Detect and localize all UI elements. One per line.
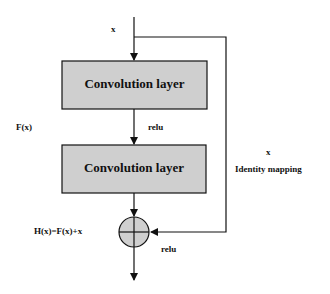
shortcut-x-label: x [266,147,271,157]
input-label: x [111,24,116,34]
residual-block-diagram: x Convolution layer F(x) relu Convolutio… [0,0,330,294]
relu-label-1: relu [148,122,163,132]
sum-formula-label: H(x)=F(x)+x [34,226,82,236]
sum-node-icon [119,217,149,247]
conv-layer-1-label: Convolution layer [62,76,207,92]
residual-function-label: F(x) [16,122,32,132]
relu-label-2: relu [161,244,176,254]
conv-layer-2-label: Convolution layer [62,160,206,176]
identity-mapping-label: Identity mapping [235,164,302,174]
